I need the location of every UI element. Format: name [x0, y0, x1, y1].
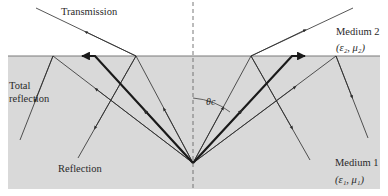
label-critical-angle: θc: [206, 96, 215, 108]
label-transmission: Transmission: [61, 6, 117, 18]
label-medium-2-params: (ε₂, μ₂): [336, 42, 365, 54]
label-medium-1-params: (ε₁, μ₁): [335, 174, 364, 186]
label-medium-2: Medium 2: [336, 26, 379, 38]
label-medium-1: Medium 1: [335, 157, 378, 169]
label-reflection: Reflection: [58, 163, 102, 175]
label-total-reflection-1: Total: [9, 80, 30, 92]
label-total-reflection-2: reflection: [9, 93, 49, 105]
